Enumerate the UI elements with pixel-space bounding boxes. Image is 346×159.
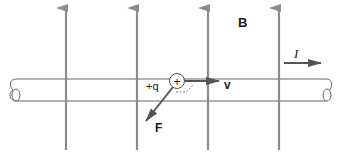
current-label: I [293,46,299,61]
magnetic-force-diagram: B I F v + +q [0,0,346,159]
field-label: B [238,15,247,30]
velocity-label: v [224,78,231,92]
charge-particle: + [170,74,185,89]
charge-plus-symbol: + [173,75,180,89]
force-arrow [146,87,173,121]
current-indicator: I [284,46,321,63]
force-label: F [155,121,162,135]
charge-label: +q [146,80,159,92]
